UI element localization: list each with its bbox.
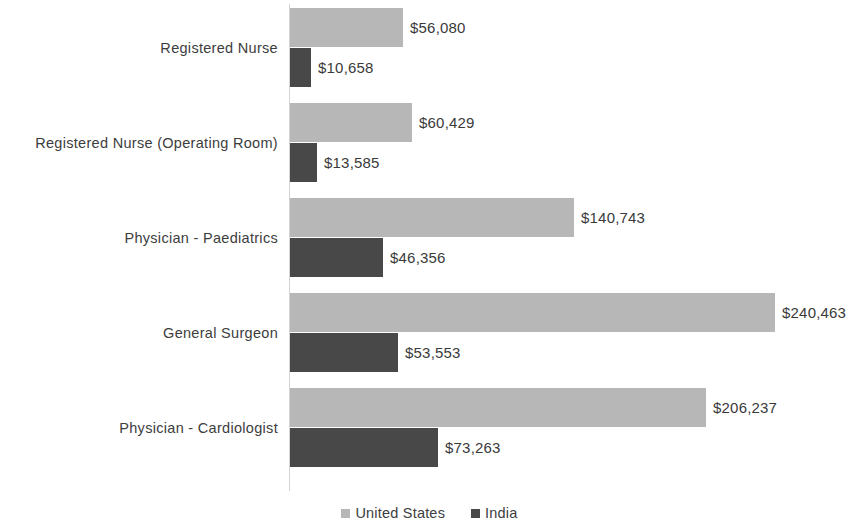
legend-label-india: India — [485, 505, 517, 521]
bar-group: General Surgeon $240,463 $53,553 — [0, 285, 859, 380]
bar-value-united-states: $56,080 — [410, 19, 466, 36]
bar-united-states[interactable] — [290, 8, 403, 47]
bar-india[interactable] — [290, 238, 383, 277]
bar-row-india: $10,658 — [290, 48, 374, 87]
plot-area: Registered Nurse $56,080 $10,658 Registe… — [0, 0, 859, 495]
legend-label-united-states: United States — [355, 505, 445, 521]
bar-row-united-states: $240,463 — [290, 293, 846, 332]
bar-value-united-states: $140,743 — [581, 209, 645, 226]
category-label: Registered Nurse (Operating Room) — [0, 135, 278, 151]
bar-value-india: $53,553 — [405, 344, 461, 361]
bar-group: Registered Nurse $56,080 $10,658 — [0, 0, 859, 95]
bar-india[interactable] — [290, 48, 311, 87]
bar-value-united-states: $206,237 — [713, 399, 777, 416]
legend-swatch-icon — [471, 509, 480, 518]
bar-row-united-states: $140,743 — [290, 198, 645, 237]
bar-united-states[interactable] — [290, 103, 412, 142]
bar-united-states[interactable] — [290, 388, 706, 427]
bar-value-united-states: $240,463 — [782, 304, 846, 321]
bar-row-india: $53,553 — [290, 333, 461, 372]
bar-row-india: $73,263 — [290, 428, 501, 467]
bar-chart: Registered Nurse $56,080 $10,658 Registe… — [0, 0, 859, 532]
bar-group: Physician - Cardiologist $206,237 $73,26… — [0, 380, 859, 475]
bar-row-india: $13,585 — [290, 143, 380, 182]
legend-item-united-states[interactable]: United States — [341, 505, 445, 521]
category-label: Physician - Cardiologist — [0, 420, 278, 436]
bar-value-united-states: $60,429 — [419, 114, 475, 131]
bar-value-india: $73,263 — [445, 439, 501, 456]
category-label: General Surgeon — [0, 325, 278, 341]
category-label: Registered Nurse — [0, 40, 278, 56]
bar-row-united-states: $60,429 — [290, 103, 475, 142]
bar-row-india: $46,356 — [290, 238, 446, 277]
bar-row-united-states: $206,237 — [290, 388, 777, 427]
legend-item-india[interactable]: India — [471, 505, 517, 521]
legend-swatch-icon — [341, 509, 350, 518]
bar-united-states[interactable] — [290, 198, 574, 237]
bar-value-india: $46,356 — [390, 249, 446, 266]
bar-row-united-states: $56,080 — [290, 8, 466, 47]
bar-india[interactable] — [290, 333, 398, 372]
bar-united-states[interactable] — [290, 293, 775, 332]
bar-india[interactable] — [290, 143, 317, 182]
category-label: Physician - Paediatrics — [0, 230, 278, 246]
chart-legend: United States India — [0, 505, 859, 521]
bar-india[interactable] — [290, 428, 438, 467]
bar-group: Physician - Paediatrics $140,743 $46,356 — [0, 190, 859, 285]
bar-group: Registered Nurse (Operating Room) $60,42… — [0, 95, 859, 190]
bar-value-india: $10,658 — [318, 59, 374, 76]
bar-value-india: $13,585 — [324, 154, 380, 171]
